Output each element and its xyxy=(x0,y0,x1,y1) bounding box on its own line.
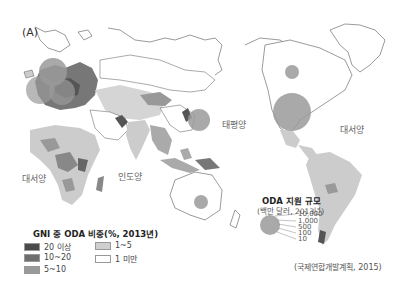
swatch xyxy=(24,266,40,274)
gni-legend-item: 1 미만 xyxy=(95,253,137,264)
gni-legend-item: 5~10 xyxy=(24,265,66,274)
gni-legend-title: GNI 중 ODA 비중(%, 2013년) xyxy=(33,227,158,239)
north-america xyxy=(262,40,352,158)
oda-circle-germany xyxy=(49,79,75,105)
source-citation: (국제연합개발계획, 2015) xyxy=(294,261,382,272)
gni-legend-item: 10~20 xyxy=(24,253,71,262)
ocean-label-pacific: 태평양 xyxy=(222,118,246,131)
gni-legend-item: 20 이상 xyxy=(24,241,71,252)
oda-circle-usa xyxy=(273,93,311,131)
oda-circle-japan xyxy=(188,109,210,131)
africa xyxy=(30,125,104,205)
oda-circle-canada xyxy=(285,65,299,79)
swatch xyxy=(95,242,111,250)
ocean-label-atlantic-west: 대서양 xyxy=(22,172,46,185)
panel-label: (A) xyxy=(22,26,38,39)
oda-circle-australia xyxy=(194,195,208,209)
oda-legend-value: 10 xyxy=(298,235,307,243)
swatch xyxy=(95,255,111,263)
southeast-asia xyxy=(160,148,220,173)
swatch xyxy=(24,243,40,251)
swatch xyxy=(24,254,40,262)
ocean-label-indian: 인도양 xyxy=(118,170,142,183)
ocean-label-atlantic-east: 대서양 xyxy=(340,123,364,136)
gni-legend-item: 1~5 xyxy=(95,241,132,250)
